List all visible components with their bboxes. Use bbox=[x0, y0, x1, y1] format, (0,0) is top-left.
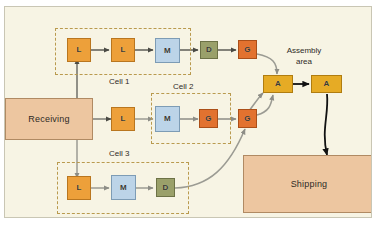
machine-code: M bbox=[164, 115, 171, 123]
shipping-label: Shipping bbox=[291, 180, 328, 189]
machine-shared-grinder[interactable]: G bbox=[238, 109, 257, 128]
receiving-department[interactable]: Receiving bbox=[5, 98, 93, 140]
machine-cell1-mill[interactable]: M bbox=[155, 38, 180, 63]
machine-code: D bbox=[206, 46, 212, 54]
machine-code: G bbox=[244, 115, 250, 123]
machine-cell1-lathe-2[interactable]: L bbox=[111, 38, 135, 62]
machine-cell2-grinder[interactable]: G bbox=[199, 109, 218, 128]
shipping-department[interactable]: Shipping bbox=[243, 155, 372, 213]
cell-2-label: Cell 2 bbox=[173, 82, 193, 91]
arrow-assembly-to-shipping bbox=[325, 94, 328, 155]
assembly-area-label-line1: Assembly bbox=[277, 46, 331, 55]
machine-code: A bbox=[324, 80, 330, 88]
machine-code: M bbox=[120, 184, 127, 192]
machine-code: G bbox=[205, 115, 211, 123]
machine-cell3-mill[interactable]: M bbox=[111, 175, 136, 200]
machine-cell1-grinder[interactable]: G bbox=[238, 40, 257, 59]
machine-code: G bbox=[244, 46, 250, 54]
assembly-area-label-line2: area bbox=[277, 57, 331, 66]
assembly-station-1[interactable]: A bbox=[263, 75, 293, 93]
machine-cell1-drill[interactable]: D bbox=[200, 41, 218, 59]
diagram-canvas: Receiving Shipping L L M D G L M G bbox=[4, 6, 372, 218]
cellular-layout-figure: Receiving Shipping L L M D G L M G bbox=[0, 0, 376, 225]
machine-cell3-drill[interactable]: D bbox=[156, 178, 175, 197]
cell-1-label: Cell 1 bbox=[109, 77, 129, 86]
machine-code: L bbox=[120, 46, 125, 54]
arrow-g2-to-assembly bbox=[257, 95, 273, 115]
machine-cell2-lathe[interactable]: L bbox=[111, 107, 135, 131]
arrow-c1-g-to-assembly bbox=[257, 54, 277, 74]
assembly-station-2[interactable]: A bbox=[311, 75, 342, 93]
machine-code: L bbox=[76, 46, 81, 54]
machine-code: L bbox=[120, 115, 125, 123]
receiving-label: Receiving bbox=[28, 115, 69, 124]
machine-code: A bbox=[275, 80, 281, 88]
machine-code: M bbox=[164, 47, 171, 55]
machine-code: L bbox=[76, 184, 81, 192]
machine-code: D bbox=[163, 184, 169, 192]
machine-cell1-lathe-1[interactable]: L bbox=[67, 38, 91, 62]
machine-cell3-lathe[interactable]: L bbox=[67, 176, 91, 200]
machine-cell2-mill[interactable]: M bbox=[155, 106, 180, 132]
cell-3-label: Cell 3 bbox=[109, 149, 129, 158]
